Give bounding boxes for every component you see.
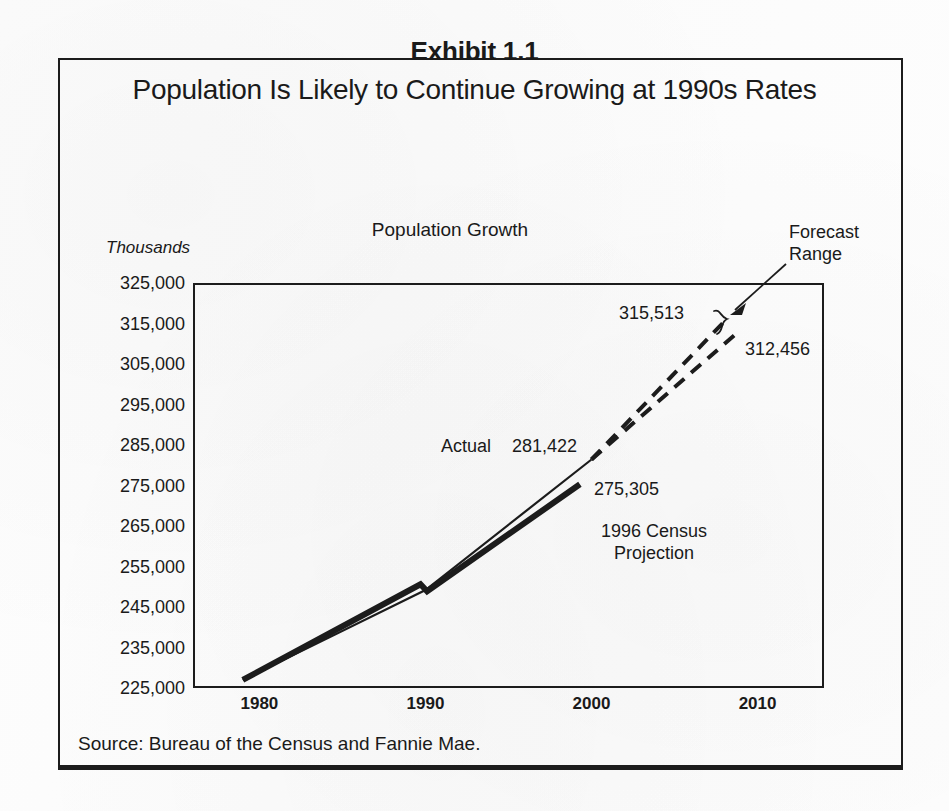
x-tick-label: 1990 xyxy=(380,694,470,714)
annotation-actual: Actual xyxy=(441,436,491,458)
y-tick-label: 265,000 xyxy=(75,516,185,537)
chart-title: Population Growth xyxy=(300,219,600,241)
y-tick-label: 295,000 xyxy=(75,394,185,415)
y-axis-tick-labels: 225,000235,000245,000255,000265,000275,0… xyxy=(73,283,185,688)
x-tick-label: 1980 xyxy=(214,694,304,714)
exhibit-title: Population Is Likely to Continue Growing… xyxy=(0,74,949,106)
y-tick-label: 225,000 xyxy=(75,678,185,699)
y-axis-units-label: Thousands xyxy=(106,238,190,258)
annotation-census-value: 275,305 xyxy=(594,479,659,501)
annotation-forecast-high: 315,513 xyxy=(619,303,684,325)
exhibit-number: Exhibit 1.1 xyxy=(0,36,949,67)
plot-area xyxy=(193,283,824,688)
y-tick-label: 315,000 xyxy=(75,313,185,334)
annotation-census-projection: 1996 Census Projection xyxy=(589,521,719,565)
source-note: Source: Bureau of the Census and Fannie … xyxy=(78,733,480,755)
y-tick-label: 235,000 xyxy=(75,637,185,658)
annotation-forecast-range: Forecast Range xyxy=(789,222,909,265)
x-tick-label: 2000 xyxy=(547,694,637,714)
x-tick-label: 2010 xyxy=(713,694,803,714)
y-tick-label: 285,000 xyxy=(75,435,185,456)
annotation-actual-value: 281,422 xyxy=(512,436,577,458)
y-tick-label: 255,000 xyxy=(75,556,185,577)
y-tick-label: 245,000 xyxy=(75,597,185,618)
y-tick-label: 325,000 xyxy=(75,273,185,294)
x-axis-tick-labels: 1980199020002010 xyxy=(193,694,824,722)
y-tick-label: 305,000 xyxy=(75,354,185,375)
annotation-forecast-low: 312,456 xyxy=(745,339,810,361)
y-tick-label: 275,000 xyxy=(75,475,185,496)
